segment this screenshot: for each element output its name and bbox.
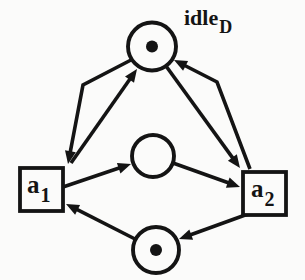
transition-a2: a2 bbox=[243, 172, 286, 215]
arc-line bbox=[166, 66, 234, 159]
place-idle-label: idleD bbox=[184, 5, 232, 37]
arrowhead-icon bbox=[117, 163, 131, 173]
petri-net-figure: idleDa1a2 bbox=[0, 0, 305, 280]
arc-idle-to-a1 bbox=[65, 60, 131, 164]
token-icon bbox=[146, 41, 158, 53]
arrowhead-icon bbox=[179, 229, 193, 239]
arc-a2-to-bot bbox=[179, 214, 248, 240]
arc-a1-to-idle bbox=[71, 69, 137, 163]
place-idle-label-main: idle bbox=[184, 5, 218, 30]
arc-line bbox=[70, 60, 131, 153]
arc-line bbox=[173, 163, 230, 183]
transition-a2-label-main: a bbox=[251, 175, 264, 202]
arc-bot-to-a1 bbox=[66, 204, 135, 239]
petri-net-canvas: idleDa1a2 bbox=[0, 0, 305, 280]
place-idle-label-subscript: D bbox=[219, 17, 232, 37]
transition-a1-label-main: a bbox=[27, 171, 40, 198]
arc-mid-to-a2 bbox=[173, 163, 240, 188]
place-mid bbox=[132, 135, 174, 177]
transition-a2-label-subscript: 2 bbox=[265, 188, 275, 210]
arc-a2-to-idle bbox=[174, 60, 250, 169]
arc-line bbox=[76, 209, 135, 239]
arc-line bbox=[63, 168, 121, 187]
arc-line bbox=[184, 65, 250, 169]
arc-line bbox=[189, 214, 248, 235]
place-mid-circle bbox=[132, 135, 174, 177]
arc-a1-to-mid bbox=[63, 163, 131, 187]
transition-a1: a1 bbox=[20, 168, 63, 211]
place-bot bbox=[133, 227, 179, 273]
transition-a1-label-subscript: 1 bbox=[41, 184, 51, 206]
arrowhead-icon bbox=[226, 177, 240, 187]
token-icon bbox=[150, 244, 162, 256]
arc-line bbox=[71, 78, 131, 163]
